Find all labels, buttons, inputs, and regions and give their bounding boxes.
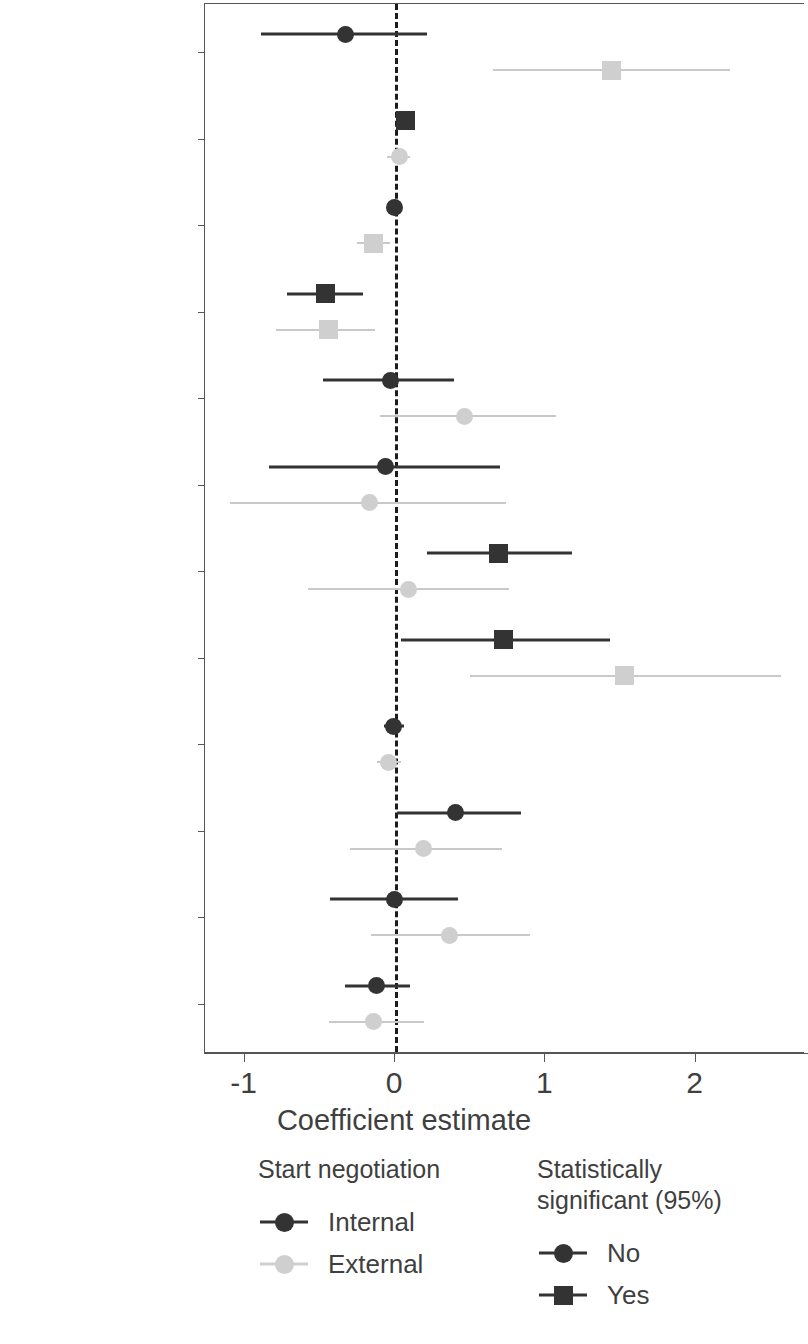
y-axis-tick [198, 139, 205, 140]
estimate-marker-circle [361, 494, 378, 511]
y-axis-tick [198, 658, 205, 659]
y-axis-tick [198, 831, 205, 832]
legend-label-no: No [607, 1238, 640, 1269]
coefficient-plot-figure: Minor-power warRecent imbalanceOverall i… [0, 0, 808, 1344]
y-axis-tick [198, 398, 205, 399]
legend-item-internal[interactable]: Internal [258, 1201, 440, 1243]
legend-item-not-significant[interactable]: No [537, 1232, 722, 1274]
estimate-marker-circle [380, 754, 397, 771]
y-axis-tick [198, 571, 205, 572]
y-axis-tick [198, 312, 205, 313]
x-axis-tick [394, 1053, 395, 1062]
legend-key-external-icon [258, 1251, 310, 1277]
legend-item-external[interactable]: External [258, 1243, 440, 1285]
x-axis-ticks [204, 1053, 808, 1065]
estimate-marker-square [364, 234, 383, 253]
x-axis-tick [544, 1053, 545, 1062]
y-axis-tick [198, 1004, 205, 1005]
estimate-marker-circle [415, 840, 432, 857]
estimate-marker-square [494, 630, 513, 649]
legend-item-significant[interactable]: Yes [537, 1274, 722, 1316]
y-axis-tick [198, 52, 205, 53]
estimate-marker-circle [441, 927, 458, 944]
estimate-marker-circle [456, 408, 473, 425]
estimate-marker-square [602, 61, 621, 80]
estimate-marker-circle [368, 977, 385, 994]
estimate-marker-square [489, 544, 508, 563]
legend-start-negotiation: Start negotiation Internal External [258, 1154, 440, 1285]
x-axis-title: Coefficient estimate [0, 1104, 808, 1137]
estimate-marker-square [319, 320, 338, 339]
estimate-marker-square [316, 284, 335, 303]
x-axis-tick-label: -1 [230, 1066, 257, 1100]
estimate-marker-square [615, 666, 634, 685]
estimate-marker-circle [365, 1013, 382, 1030]
x-axis-tick-label: 1 [536, 1066, 553, 1100]
legend-label-external: External [328, 1249, 423, 1280]
estimate-marker-circle [400, 581, 417, 598]
estimate-marker-circle [447, 804, 464, 821]
estimate-marker-circle [386, 891, 403, 908]
legend-key-no-icon [537, 1240, 589, 1266]
estimate-marker-circle [385, 718, 402, 735]
legend-title: Statistically significant (95%) [537, 1154, 722, 1216]
legend-key-yes-icon [537, 1282, 589, 1308]
legend-label-internal: Internal [328, 1207, 415, 1238]
x-axis-tick [695, 1053, 696, 1062]
y-axis-tick [198, 485, 205, 486]
estimate-marker-square [396, 111, 415, 130]
legend-title: Start negotiation [258, 1154, 440, 1185]
estimate-marker-circle [337, 26, 354, 43]
x-axis-tick [244, 1053, 245, 1062]
plot-panel [204, 3, 804, 1053]
estimate-marker-circle [386, 199, 403, 216]
legend-key-internal-icon [258, 1209, 310, 1235]
y-axis-tick [198, 917, 205, 918]
x-axis-tick-label: 0 [386, 1066, 403, 1100]
x-axis-tick-label: 2 [686, 1066, 703, 1100]
y-axis-tick [198, 744, 205, 745]
legend-statistical-significance: Statistically significant (95%) No Yes [537, 1154, 722, 1316]
estimate-marker-circle [382, 372, 399, 389]
legend-label-yes: Yes [607, 1280, 649, 1311]
y-axis-tick [198, 225, 205, 226]
estimate-marker-circle [377, 458, 394, 475]
estimate-marker-circle [391, 148, 408, 165]
